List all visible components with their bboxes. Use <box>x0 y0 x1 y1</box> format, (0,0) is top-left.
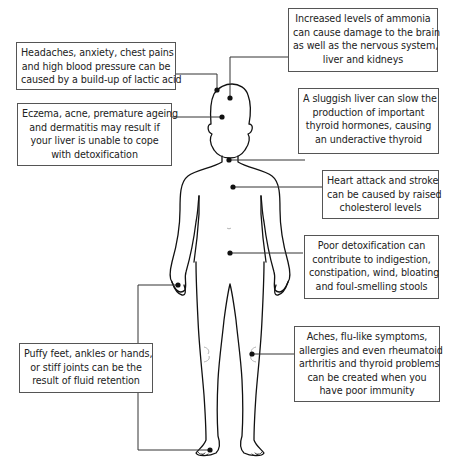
callout-line: and high blood pressure can be <box>21 60 171 74</box>
callout-line: Headaches, anxiety, chest pains <box>21 46 171 60</box>
callout-line: can be caused by raised <box>327 188 434 202</box>
callout-line: can be created when you <box>299 371 435 385</box>
callout-immunity: Aches, flu-like symptoms, allergies and … <box>294 326 440 402</box>
callout-lactic-acid: Headaches, anxiety, chest pains and high… <box>16 42 176 90</box>
dot-knee <box>249 351 254 356</box>
callout-line: result of fluid retention <box>24 374 148 388</box>
callout-line: or stiff joints can be the <box>24 361 148 375</box>
callout-line: caused by a build-up of lactic acid <box>21 73 171 87</box>
callout-line: production of important <box>303 106 434 120</box>
callout-cholesterol: Heart attack and stroke can be caused by… <box>322 170 439 219</box>
callout-line: Puffy feet, ankles or hands, <box>24 347 148 361</box>
legs-outline <box>196 262 264 456</box>
callout-line: thyroid hormones, causing <box>303 119 434 133</box>
callout-fluid-retention: Puffy feet, ankles or hands, or stiff jo… <box>19 343 153 393</box>
callout-line: constipation, wind, bloating <box>309 266 434 280</box>
dot-chest <box>230 184 235 189</box>
callout-ammonia: Increased levels of ammonia can cause da… <box>288 8 438 72</box>
callout-skin: Eczema, acne, premature ageing and derma… <box>17 103 172 166</box>
callout-thyroid: A sluggish liver can slow the production… <box>298 88 439 154</box>
callout-line: A sluggish liver can slow the <box>303 92 434 106</box>
callout-line: an underactive thyroid <box>303 133 434 147</box>
dot-head-top <box>214 87 219 92</box>
body-diagram: Headaches, anxiety, chest pains and high… <box>0 0 456 471</box>
callout-line: Poor detoxification can <box>309 239 434 253</box>
dot-foot <box>207 447 212 452</box>
callout-line: contribute to indigestion, <box>309 253 434 267</box>
callout-line: with detoxification <box>22 148 167 162</box>
callout-line: allergies and even rheumatoid <box>299 344 435 358</box>
dot-face <box>219 114 224 119</box>
callout-line: Heart attack and stroke <box>327 174 434 188</box>
callout-line: Eczema, acne, premature ageing <box>22 107 167 121</box>
callout-line: Aches, flu-like symptoms, <box>299 330 435 344</box>
callout-line: have poor immunity <box>299 384 435 398</box>
dot-throat <box>226 157 231 162</box>
callout-digestion: Poor detoxification can contribute to in… <box>304 235 439 299</box>
callout-line: arthritis and thyroid problems <box>299 357 435 371</box>
callout-line: and foul-smelling stools <box>309 280 434 294</box>
callout-line: and dermatitis may result if <box>22 121 167 135</box>
dot-brain <box>227 95 232 100</box>
dot-abdomen <box>227 250 232 255</box>
dot-hand <box>175 282 180 287</box>
callout-line: as well as the nervous system, <box>293 39 433 53</box>
callout-line: your liver is unable to cope <box>22 134 167 148</box>
callout-line: liver and kidneys <box>293 53 433 67</box>
callout-line: cholesterol levels <box>327 201 434 215</box>
callout-line: can cause damage to the brain <box>293 26 433 40</box>
callout-line: Increased levels of ammonia <box>293 12 433 26</box>
